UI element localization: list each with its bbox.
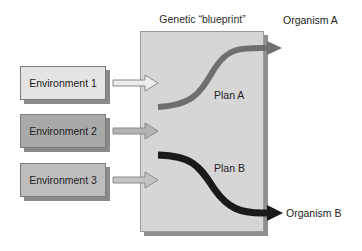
input-arrow-3 <box>113 172 158 188</box>
organism-b-label: Organism B <box>286 207 341 219</box>
plan-a-label: Plan A <box>214 89 244 101</box>
input-arrow-1 <box>113 75 158 91</box>
input-arrow-2 <box>113 123 158 139</box>
plan-b-label: Plan B <box>214 162 245 174</box>
organism-a-label: Organism A <box>283 14 338 26</box>
